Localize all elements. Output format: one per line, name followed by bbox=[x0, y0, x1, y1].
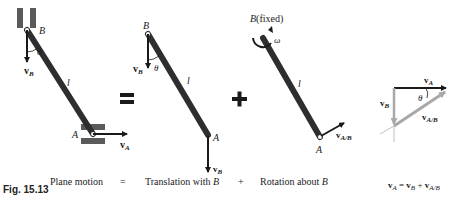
caption-translation: Translation with B bbox=[145, 176, 219, 187]
label-va: vA bbox=[424, 76, 433, 87]
label-length: l bbox=[67, 78, 70, 88]
omega-arrowhead bbox=[268, 26, 273, 33]
caption-rotation: Rotation about B bbox=[260, 176, 328, 187]
label-point-a: A bbox=[316, 145, 322, 155]
label-theta: θ bbox=[37, 48, 41, 57]
label-b-fixed: B(fixed) bbox=[250, 14, 283, 24]
label-velocity-b: vB bbox=[133, 64, 143, 76]
caption-plane-motion: Plane motion bbox=[50, 176, 103, 187]
label-velocity-a: vA bbox=[120, 140, 130, 152]
theta-arc bbox=[148, 56, 159, 60]
label-vab: vA/B bbox=[422, 113, 438, 124]
rod bbox=[27, 30, 93, 134]
diagram-canvas bbox=[0, 0, 466, 204]
slider-guide-bottom bbox=[81, 138, 105, 144]
label-point-a: A bbox=[72, 130, 78, 140]
guide-line-diagonal bbox=[380, 126, 394, 134]
slider-guide-left bbox=[17, 8, 23, 28]
caption-plus: + bbox=[238, 176, 244, 187]
label-omega: ω bbox=[274, 36, 280, 45]
label-theta: θ bbox=[154, 64, 158, 73]
label-length: l bbox=[187, 76, 190, 86]
theta-arc bbox=[426, 88, 428, 98]
label-velocity-ab: vA/B bbox=[336, 131, 352, 142]
label-velocity-b-at-a: vB bbox=[213, 165, 222, 176]
label-point-a: A bbox=[213, 133, 219, 143]
rod bbox=[148, 34, 208, 135]
figure-number: Fig. 15.13 bbox=[3, 184, 49, 195]
label-point-b: B bbox=[143, 21, 149, 31]
label-theta: θ bbox=[418, 94, 422, 103]
label-vb: vB bbox=[380, 99, 389, 110]
equals-operator bbox=[120, 93, 134, 104]
label-velocity-b: vB bbox=[24, 66, 34, 78]
label-length: l bbox=[298, 79, 301, 89]
translation-panel bbox=[146, 32, 208, 172]
slider-guide-right bbox=[30, 8, 36, 28]
caption-equals: = bbox=[120, 176, 126, 187]
label-point-b: B bbox=[39, 26, 45, 36]
plus-operator bbox=[232, 92, 247, 107]
caption-equation: vA = vB + vA/B bbox=[388, 180, 440, 192]
rod bbox=[263, 38, 320, 137]
